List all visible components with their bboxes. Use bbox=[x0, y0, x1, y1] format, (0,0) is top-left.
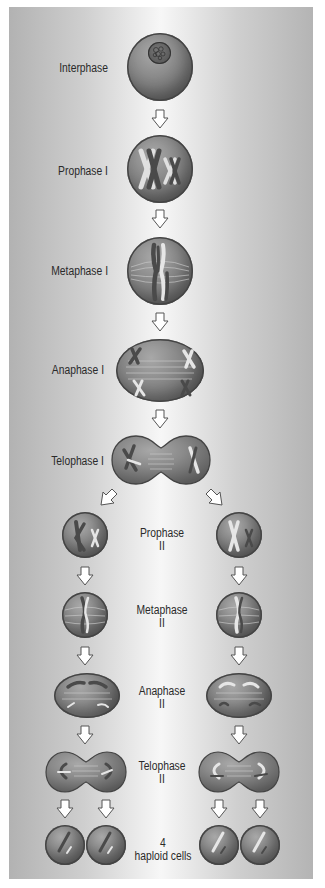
cell-metaphase-2-left bbox=[62, 592, 108, 638]
down-arrow-icon bbox=[77, 647, 93, 665]
label-metaphase-1: Metaphase I bbox=[41, 265, 108, 278]
haploid-cell-3 bbox=[199, 825, 239, 865]
cell-telophase-1 bbox=[110, 434, 212, 486]
down-arrow-icon bbox=[211, 800, 227, 818]
cell-anaphase-1 bbox=[116, 339, 204, 402]
label-prophase-2: Prophase II bbox=[136, 527, 188, 553]
label-prophase-1: Prophase I bbox=[50, 165, 108, 178]
label-interphase: Interphase bbox=[50, 62, 108, 75]
chromosome-icon bbox=[224, 520, 256, 552]
cell-telophase-2-left bbox=[44, 750, 128, 794]
label-telophase-2: Telophase II bbox=[134, 760, 189, 786]
chromosome-icon bbox=[232, 596, 246, 634]
label-line-2: II bbox=[134, 698, 189, 711]
chromosome-icon bbox=[70, 520, 102, 552]
chromosome-tetrad-icon bbox=[149, 243, 173, 301]
nucleus bbox=[148, 42, 171, 64]
label-telophase-1: Telophase I bbox=[40, 455, 104, 468]
chromatid-icon bbox=[248, 831, 272, 859]
label-anaphase-2: Anaphase II bbox=[134, 685, 189, 711]
down-arrow-icon bbox=[252, 800, 268, 818]
cell-anaphase-2-left bbox=[54, 673, 120, 718]
label-line-2: II bbox=[134, 773, 189, 786]
down-arrow-icon bbox=[231, 726, 247, 744]
down-arrow-icon bbox=[152, 410, 168, 428]
down-arrow-icon bbox=[152, 210, 168, 228]
cell-telophase-2-right bbox=[197, 750, 281, 794]
label-metaphase-2: Metaphase II bbox=[133, 604, 191, 630]
cell-prophase-2-left bbox=[62, 512, 108, 558]
label-anaphase-1: Anaphase I bbox=[40, 364, 104, 377]
haploid-cell-1 bbox=[45, 825, 85, 865]
down-arrow-icon bbox=[152, 110, 168, 128]
cell-metaphase-1 bbox=[127, 237, 193, 305]
cell-prophase-1 bbox=[127, 135, 193, 203]
chromatid-icon bbox=[53, 831, 77, 859]
label-haploid-cells: 4 haploid cells bbox=[133, 837, 193, 863]
down-right-arrow-icon bbox=[205, 488, 223, 506]
spindle-chromatids-icon bbox=[206, 673, 272, 718]
chromosome-icon bbox=[78, 596, 92, 634]
chromatid-icon bbox=[207, 831, 231, 859]
down-arrow-icon bbox=[77, 726, 93, 744]
chromatid-icon bbox=[94, 831, 118, 859]
down-arrow-icon bbox=[231, 647, 247, 665]
label-line-2: II bbox=[136, 540, 188, 553]
spindle-chromatids-icon bbox=[54, 673, 120, 718]
down-arrow-icon bbox=[77, 567, 93, 585]
cell-anaphase-2-right bbox=[206, 673, 272, 718]
chromatin-icon bbox=[148, 42, 171, 64]
down-arrow-icon bbox=[152, 313, 168, 331]
label-line-2: II bbox=[133, 617, 191, 630]
chromosome-pair-icon bbox=[135, 147, 187, 191]
down-left-arrow-icon bbox=[100, 488, 118, 506]
separating-chromosomes-icon bbox=[124, 345, 198, 397]
cell-interphase bbox=[127, 33, 193, 101]
cell-metaphase-2-right bbox=[216, 592, 262, 638]
label-line-2: haploid cells bbox=[133, 850, 193, 863]
cell-prophase-2-right bbox=[216, 512, 262, 558]
down-arrow-icon bbox=[57, 800, 73, 818]
down-arrow-icon bbox=[231, 567, 247, 585]
haploid-cell-2 bbox=[86, 825, 126, 865]
down-arrow-icon bbox=[98, 800, 114, 818]
haploid-cell-4 bbox=[240, 825, 280, 865]
